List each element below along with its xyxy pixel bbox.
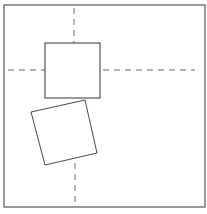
outer-frame (4, 5, 205, 207)
diagram-canvas (0, 0, 207, 214)
rotated-square (31, 100, 97, 165)
upright-square (45, 43, 100, 98)
